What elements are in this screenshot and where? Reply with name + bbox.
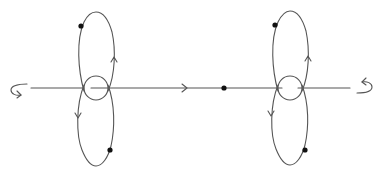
left-bottom-loop	[78, 85, 114, 166]
right-bottom-loop	[272, 85, 308, 165]
knot-diagram	[0, 0, 384, 174]
right-top-dot	[272, 22, 277, 27]
left-rotation-arrow-icon	[11, 84, 27, 98]
right-bottom-dot	[302, 147, 307, 152]
right-down-arrow-icon	[268, 111, 274, 116]
left-bottom-dot	[107, 147, 112, 152]
left-top-loop	[79, 12, 115, 91]
right-top-loop	[273, 11, 309, 91]
right-rotation-arrow-icon	[357, 78, 372, 93]
left-figure	[75, 12, 117, 166]
left-top-dot	[78, 23, 83, 28]
center-dot	[221, 85, 226, 90]
